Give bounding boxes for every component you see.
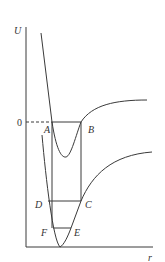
potential-energy-diagram: U r 0 A B C D E F: [0, 0, 165, 262]
lower-potential-curve: [42, 135, 152, 247]
point-B-label: B: [88, 124, 94, 135]
y-axis-label: U: [14, 25, 22, 36]
point-E-label: E: [73, 227, 80, 238]
zero-label: 0: [17, 117, 22, 128]
x-axis-label: r: [148, 252, 152, 262]
point-C-label: C: [85, 199, 92, 210]
point-A-label: A: [43, 124, 51, 135]
upper-potential-curve: [41, 33, 147, 157]
point-D-label: D: [34, 199, 43, 210]
point-F-label: F: [40, 227, 48, 238]
